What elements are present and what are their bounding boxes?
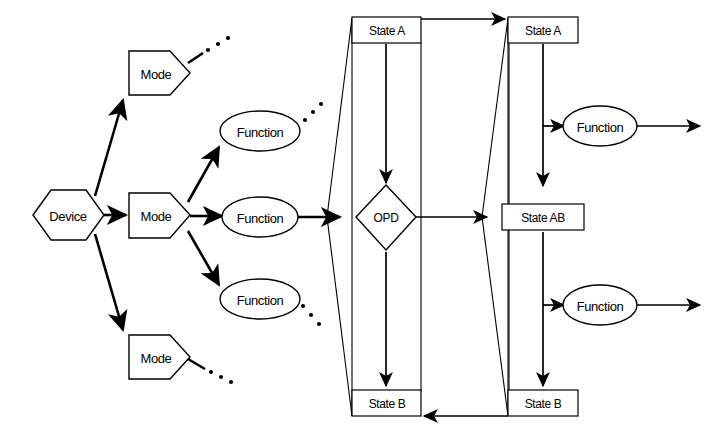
edge-device-to-mode-bottom <box>95 234 123 330</box>
node-state-b-right-label: State B <box>525 397 562 411</box>
node-opd-label: OPD <box>374 211 400 225</box>
edge-device-to-mode-top <box>95 100 123 196</box>
node-function-middle-left-label: Function <box>237 211 284 226</box>
node-function-upper-right[interactable]: Function <box>563 106 637 146</box>
node-state-a-left[interactable]: State A <box>352 17 421 43</box>
edge-mode-to-function-upper <box>188 147 219 202</box>
node-state-b-left-label: State B <box>369 397 406 411</box>
node-state-ab-right-label: State AB <box>521 211 565 225</box>
ellipsis-mode-bottom-icon <box>188 359 233 384</box>
node-function-upper-left[interactable]: Function <box>220 111 300 151</box>
node-device-label: Device <box>49 209 87 224</box>
node-state-a-left-label: State A <box>369 24 405 38</box>
node-state-b-right[interactable]: State B <box>508 390 578 416</box>
node-function-lower-left[interactable]: Function <box>220 279 300 319</box>
node-opd[interactable]: OPD <box>356 185 416 250</box>
node-function-upper-right-label: Function <box>577 120 624 135</box>
node-mode-middle-label: Mode <box>141 209 172 224</box>
ellipsis-mode-top-icon <box>188 36 230 63</box>
ellipsis-function-upper-left-icon <box>303 102 323 122</box>
node-function-upper-left-label: Function <box>237 125 284 140</box>
node-mode-top[interactable]: Mode <box>129 51 190 95</box>
ellipsis-function-lower-left-icon <box>301 304 321 326</box>
node-state-ab-right[interactable]: State AB <box>502 204 584 230</box>
node-function-lower-right-label: Function <box>577 299 624 314</box>
node-function-middle-left[interactable]: Function <box>222 197 298 237</box>
diagram-svg: Device Mode Mode Mode Function Function … <box>0 0 709 437</box>
node-state-b-left[interactable]: State B <box>352 390 421 416</box>
node-mode-bottom[interactable]: Mode <box>129 335 190 379</box>
node-function-lower-left-label: Function <box>237 293 284 308</box>
node-function-lower-right[interactable]: Function <box>563 285 637 325</box>
node-state-a-right-label: State A <box>525 24 561 38</box>
node-device[interactable]: Device <box>33 190 104 240</box>
node-mode-bottom-label: Mode <box>141 351 172 366</box>
node-state-a-right[interactable]: State A <box>508 17 578 43</box>
node-mode-middle[interactable]: Mode <box>129 193 190 238</box>
diagram-canvas: Device Mode Mode Mode Function Function … <box>0 0 709 437</box>
node-mode-top-label: Mode <box>141 67 172 82</box>
edge-mode-to-function-lower <box>188 231 219 285</box>
